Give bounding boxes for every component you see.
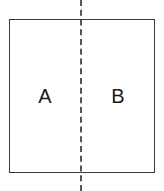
region-label-b: B (106, 86, 130, 106)
square-shape (9, 19, 155, 173)
figure-canvas: A B (0, 0, 164, 191)
region-label-a: A (33, 86, 57, 106)
dashed-symmetry-line (80, 0, 82, 191)
